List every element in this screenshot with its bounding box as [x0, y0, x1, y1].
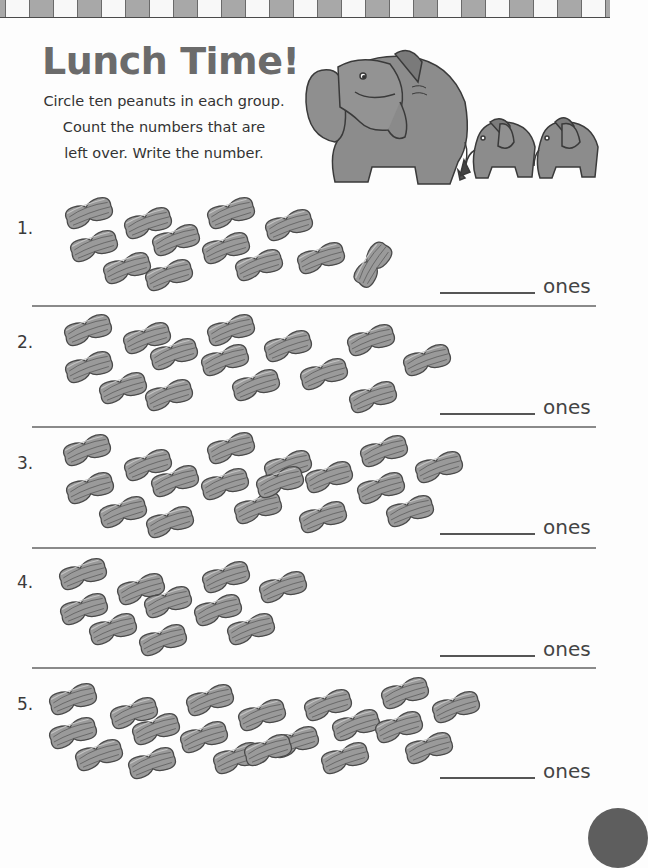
- row-separator: [32, 547, 596, 549]
- answer-field-4[interactable]: ones: [440, 635, 600, 659]
- peanut-icon[interactable]: [116, 443, 178, 487]
- peanut-icon[interactable]: [193, 338, 255, 382]
- answer-unit-label: ones: [543, 759, 591, 783]
- peanut-icon[interactable]: [219, 607, 281, 651]
- peanut-icon[interactable]: [289, 236, 351, 280]
- peanut-icon[interactable]: [138, 500, 200, 544]
- peanut-icon[interactable]: [341, 375, 403, 419]
- peanut-icon[interactable]: [263, 720, 325, 764]
- peanut-icon[interactable]: [257, 203, 319, 247]
- peanut-icon[interactable]: [296, 683, 358, 727]
- border-cell: [198, 0, 222, 17]
- peanut-icon[interactable]: [424, 685, 486, 729]
- answer-blank[interactable]: [440, 413, 535, 415]
- peanut-icon[interactable]: [81, 607, 143, 651]
- peanut-icon[interactable]: [58, 466, 120, 510]
- peanut-icon[interactable]: [194, 226, 256, 270]
- peanut-icon[interactable]: [115, 316, 177, 360]
- problem-number: 4.: [17, 572, 33, 592]
- peanut-icon[interactable]: [248, 460, 310, 504]
- peanut-icon[interactable]: [339, 318, 401, 362]
- peanut-icon[interactable]: [57, 191, 119, 235]
- peanut-icon[interactable]: [407, 445, 469, 489]
- problem-number: 2.: [17, 332, 33, 352]
- peanut-icon[interactable]: [91, 366, 153, 410]
- peanut-icon[interactable]: [136, 580, 198, 624]
- peanut-icon[interactable]: [41, 677, 103, 721]
- peanut-icon[interactable]: [62, 224, 124, 268]
- peanut-icon[interactable]: [56, 308, 118, 352]
- peanut-icon[interactable]: [199, 426, 261, 470]
- peanut-icon[interactable]: [297, 455, 359, 499]
- peanut-icon[interactable]: [199, 308, 261, 352]
- answer-field-1[interactable]: ones: [440, 272, 600, 296]
- peanut-icon[interactable]: [67, 733, 129, 777]
- peanut-icon[interactable]: [236, 728, 298, 772]
- peanut-icon[interactable]: [120, 741, 182, 785]
- answer-blank[interactable]: [440, 655, 535, 657]
- peanut-icon[interactable]: [186, 588, 248, 632]
- peanut-icon[interactable]: [230, 693, 292, 737]
- page-corner-tab: [588, 808, 648, 868]
- peanut-icon[interactable]: [395, 338, 457, 382]
- peanut-icon[interactable]: [199, 191, 261, 235]
- peanut-icon[interactable]: [226, 486, 288, 530]
- border-cell: [126, 0, 150, 17]
- peanut-icon[interactable]: [172, 715, 234, 759]
- peanut-icon[interactable]: [367, 705, 429, 749]
- border-cell: [510, 0, 534, 17]
- peanut-icon[interactable]: [137, 253, 199, 297]
- peanut-icon[interactable]: [142, 332, 204, 376]
- answer-blank[interactable]: [440, 292, 535, 294]
- peanut-icon[interactable]: [313, 736, 375, 780]
- answer-field-2[interactable]: ones: [440, 393, 600, 417]
- peanut-icon[interactable]: [109, 567, 171, 611]
- answer-blank[interactable]: [440, 533, 535, 535]
- peanut-icon[interactable]: [373, 671, 435, 715]
- peanut-icon[interactable]: [95, 246, 157, 290]
- peanut-icon[interactable]: [137, 373, 199, 417]
- border-cell: [294, 0, 318, 17]
- peanut-icon[interactable]: [324, 703, 386, 747]
- answer-field-3[interactable]: ones: [440, 513, 600, 537]
- border-cell: [558, 0, 582, 17]
- peanut-icon[interactable]: [52, 587, 114, 631]
- page-title: Lunch Time!: [42, 36, 299, 86]
- peanut-icon[interactable]: [91, 490, 153, 534]
- peanut-icon[interactable]: [144, 218, 206, 262]
- instruction-line: Count the numbers that are: [28, 114, 300, 140]
- peanut-icon[interactable]: [227, 243, 289, 287]
- peanut-icon[interactable]: [194, 555, 256, 599]
- peanut-icon[interactable]: [224, 363, 286, 407]
- peanut-icon[interactable]: [205, 736, 267, 780]
- problem-number: 1.: [17, 218, 33, 238]
- peanut-icon[interactable]: [292, 352, 354, 396]
- peanut-icon[interactable]: [116, 201, 178, 245]
- peanut-icon[interactable]: [178, 678, 240, 722]
- problem-number: 5.: [17, 694, 33, 714]
- peanut-icon[interactable]: [57, 345, 119, 389]
- instruction-line: left over. Write the number.: [28, 140, 300, 166]
- peanut-icon[interactable]: [124, 707, 186, 751]
- peanut-icon[interactable]: [51, 552, 113, 596]
- peanut-icon[interactable]: [349, 466, 411, 510]
- answer-unit-label: ones: [543, 274, 591, 298]
- peanut-icon[interactable]: [193, 462, 255, 506]
- answer-blank[interactable]: [440, 777, 535, 779]
- answer-field-5[interactable]: ones: [440, 757, 600, 781]
- peanut-icon[interactable]: [41, 711, 103, 755]
- peanut-icon[interactable]: [143, 459, 205, 503]
- peanut-icon[interactable]: [251, 565, 313, 609]
- peanut-icon[interactable]: [344, 234, 399, 296]
- border-cell: [486, 0, 510, 17]
- border-cell: [534, 0, 558, 17]
- peanut-icon[interactable]: [352, 429, 414, 473]
- peanut-icon[interactable]: [378, 489, 440, 533]
- peanut-icon[interactable]: [291, 495, 353, 539]
- peanut-icon[interactable]: [55, 428, 117, 472]
- border-cell: [390, 0, 414, 17]
- peanut-icon[interactable]: [131, 618, 193, 662]
- peanut-icon[interactable]: [102, 691, 164, 735]
- peanut-icon[interactable]: [256, 444, 318, 488]
- peanut-icon[interactable]: [256, 324, 318, 368]
